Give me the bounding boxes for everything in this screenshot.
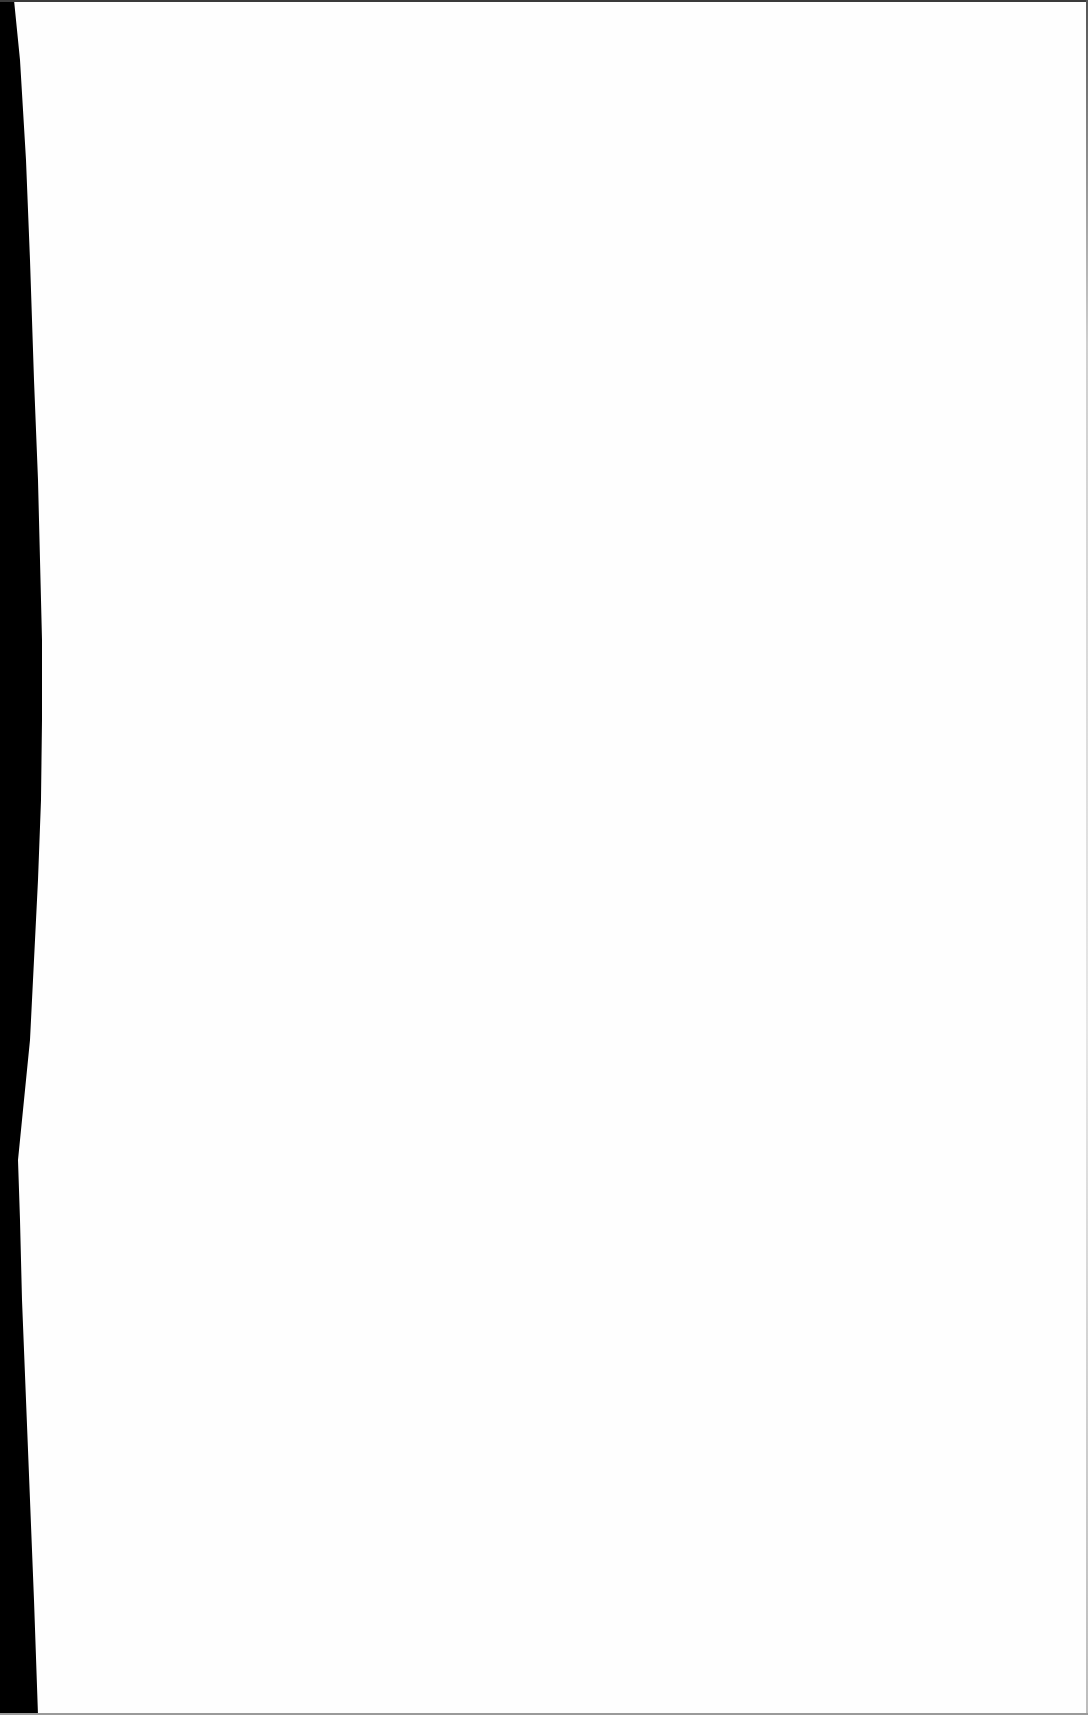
scanned-page — [0, 0, 1088, 1715]
scanner-top-edge — [0, 0, 1088, 2]
scanner-left-margin — [0, 0, 1088, 1715]
